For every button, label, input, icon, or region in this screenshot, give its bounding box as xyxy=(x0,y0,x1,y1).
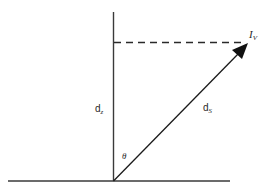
vector-diagram: IV dz dS θ xyxy=(0,0,265,191)
slant-vector-arrow xyxy=(114,52,241,181)
vertical-distance-label: dz xyxy=(95,103,104,116)
slant-distance-label: dS xyxy=(203,102,213,115)
arrowhead-icon xyxy=(232,43,248,59)
target-point-label: IV xyxy=(248,28,258,42)
angle-theta-label: θ xyxy=(122,151,127,161)
